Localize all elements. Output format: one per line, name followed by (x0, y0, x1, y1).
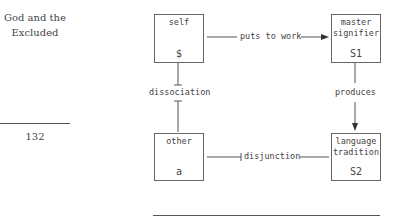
edge-label-produces: produces (335, 87, 376, 98)
node-language-tradition: language tradition S2 (331, 133, 381, 181)
arrowhead-down-icon (352, 123, 358, 131)
node-language-tradition-label-line2: tradition (332, 147, 380, 158)
node-language-tradition-label-line1: language (332, 136, 380, 147)
node-master-signifier: master signifier S1 (331, 14, 381, 63)
node-self-symbol: $ (155, 48, 203, 59)
node-master-signifier-label-line2: signifier (332, 28, 380, 39)
node-self-label: self (155, 17, 203, 28)
edge-label-puts-to-work: puts to work (240, 31, 301, 42)
edge-label-disjunction: disjunction (244, 151, 300, 162)
node-other: other a (154, 133, 204, 181)
node-language-tradition-label: language tradition (332, 136, 380, 158)
node-other-symbol: a (155, 166, 203, 177)
arrowhead-right-icon (321, 34, 329, 40)
node-master-signifier-label-line1: master (332, 17, 380, 28)
node-other-label: other (155, 136, 203, 147)
node-master-signifier-symbol: S1 (332, 48, 380, 59)
node-self: self $ (154, 14, 204, 63)
edge-label-dissociation: dissociation (149, 87, 210, 98)
figure-bottom-rule (153, 215, 380, 216)
node-language-tradition-symbol: S2 (332, 166, 380, 177)
node-master-signifier-label: master signifier (332, 17, 380, 39)
